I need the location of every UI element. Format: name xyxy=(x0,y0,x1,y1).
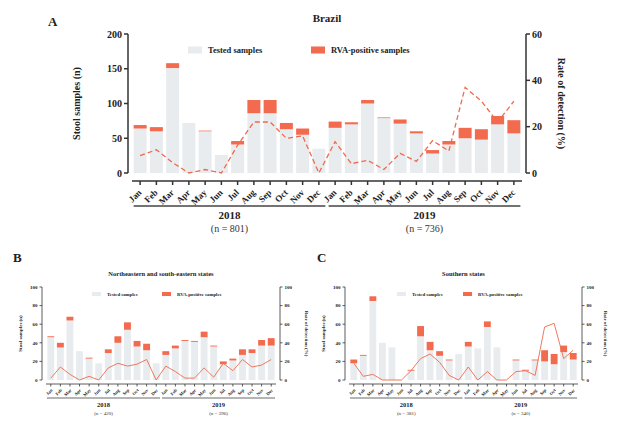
x-tick-label: Sep xyxy=(424,387,433,396)
y-tick-label: 100 xyxy=(333,285,341,290)
sample-count-label: (n = 381) xyxy=(397,411,416,416)
y-tick-label: 60 xyxy=(336,322,342,327)
x-tick-label: Apr xyxy=(376,388,385,397)
x-tick-label: Feb xyxy=(472,387,481,396)
tested-bar xyxy=(350,363,357,380)
x-tick-label: Jul xyxy=(520,387,528,395)
legend-positive-swatch xyxy=(463,292,472,296)
tested-bar xyxy=(541,361,548,380)
y-tick-label: 20 xyxy=(336,359,342,364)
y2-tick-label: 100 xyxy=(587,285,595,290)
positive-bar xyxy=(541,350,548,361)
y2-axis-label: Rate of detection (%) xyxy=(603,311,608,357)
positive-bar xyxy=(417,326,424,336)
x-tick-label: Nov xyxy=(443,387,453,397)
y-axis-label: Stool samples (n) xyxy=(321,315,326,352)
x-tick-label: Jun xyxy=(510,387,519,396)
year-label: 2018 xyxy=(400,401,414,408)
x-tick-label: Feb xyxy=(357,387,366,396)
x-tick-label: May xyxy=(385,387,395,397)
positive-bar xyxy=(465,342,472,347)
positive-bar xyxy=(484,321,491,327)
x-tick-label: Jan xyxy=(462,387,471,396)
tested-bar xyxy=(379,343,386,380)
detection-rate-line xyxy=(354,323,573,380)
y-tick-label: 40 xyxy=(336,341,342,346)
x-tick-label: Dec xyxy=(453,388,462,397)
tested-bar xyxy=(513,360,520,380)
y2-tick-label: 80 xyxy=(587,303,593,308)
x-tick-label: Jan xyxy=(348,387,357,396)
sample-count-label: (n = 340) xyxy=(511,411,530,416)
chart-title: Southern states xyxy=(442,270,485,277)
x-tick-label: Aug xyxy=(529,387,539,397)
x-tick-label: Oct xyxy=(548,387,557,396)
x-tick-label: Oct xyxy=(434,387,443,396)
y-tick-label: 80 xyxy=(336,303,342,308)
x-tick-label: Mar xyxy=(366,388,376,398)
tested-bar xyxy=(369,301,376,380)
y2-tick-label: 0 xyxy=(587,378,590,383)
tested-bar xyxy=(570,360,577,380)
x-tick-label: Nov xyxy=(557,387,567,397)
x-tick-label: Jul xyxy=(406,387,414,395)
tested-bar xyxy=(446,360,453,380)
y2-tick-label: 40 xyxy=(587,341,593,346)
tested-bar xyxy=(436,356,443,380)
x-tick-label: Aug xyxy=(414,387,424,397)
positive-bar xyxy=(570,353,577,360)
positive-bar xyxy=(513,360,520,361)
positive-bar xyxy=(369,296,376,301)
positive-bar xyxy=(436,351,443,356)
positive-bar xyxy=(532,360,539,361)
tested-bar xyxy=(465,347,472,380)
tested-bar xyxy=(389,347,396,380)
legend-positive-label: RVA-positive samples xyxy=(478,292,523,297)
year-label: 2019 xyxy=(514,401,528,408)
x-tick-label: Dec xyxy=(567,388,576,397)
y2-tick-label: 20 xyxy=(587,359,593,364)
x-tick-label: May xyxy=(499,387,509,397)
tested-bar xyxy=(493,347,500,380)
x-tick-label: Jun xyxy=(396,387,405,396)
tested-bar xyxy=(408,371,415,380)
positive-bar xyxy=(427,342,434,350)
positive-bar xyxy=(350,360,357,364)
x-tick-label: Mar xyxy=(481,388,491,398)
positive-bar xyxy=(446,360,453,361)
x-tick-label: Sep xyxy=(539,387,548,396)
legend-tested-swatch xyxy=(397,292,406,296)
y2-tick-label: 60 xyxy=(587,322,593,327)
y-tick-label: 0 xyxy=(338,378,341,383)
chart-southern: Southern states020406080100020406080100S… xyxy=(0,0,619,429)
x-tick-label: Apr xyxy=(491,388,500,397)
positive-bar xyxy=(551,354,558,364)
legend-tested-label: Tested samples xyxy=(412,292,443,297)
tested-bar xyxy=(551,364,558,380)
positive-bar xyxy=(360,355,367,356)
tested-bar xyxy=(474,348,481,380)
